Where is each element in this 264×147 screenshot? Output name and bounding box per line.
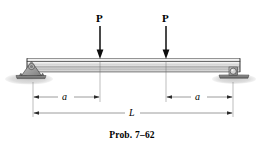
dimension-label-a-right: a xyxy=(195,92,200,102)
dimension-label-a-left: a xyxy=(62,92,67,102)
figure-caption: Prob. 7–62 xyxy=(0,131,264,141)
beam xyxy=(27,59,240,73)
load-label-1: P xyxy=(96,13,103,24)
beam-diagram-canvas xyxy=(0,0,264,147)
dimension-label-L: L xyxy=(129,108,135,118)
beam-diagram-figure: P P a a L Prob. 7–62 xyxy=(0,0,264,147)
load-label-2: P xyxy=(162,13,169,24)
load-arrow-2 xyxy=(163,26,170,59)
load-arrow-1 xyxy=(97,26,104,59)
